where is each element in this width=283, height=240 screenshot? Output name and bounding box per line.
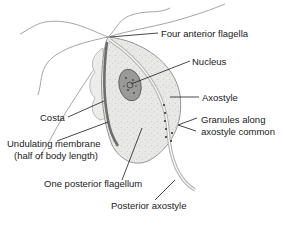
label-undulating-membrane: Undulating membrane: [7, 138, 100, 149]
label-posterior-axostyle: Posterior axostyle: [111, 200, 187, 211]
label-one-posterior-flagellum: One posterior flagellum: [44, 178, 142, 189]
label-undulating-membrane-note: (half of body length): [14, 150, 98, 161]
label-costa: Costa: [40, 112, 65, 123]
label-nucleus: Nucleus: [192, 56, 226, 67]
label-four-anterior-flagella: Four anterior flagella: [161, 28, 248, 39]
label-granules-line2: axostyle common: [201, 126, 275, 137]
label-axostyle: Axostyle: [202, 92, 238, 103]
label-granules-line1: Granules along: [201, 114, 265, 125]
